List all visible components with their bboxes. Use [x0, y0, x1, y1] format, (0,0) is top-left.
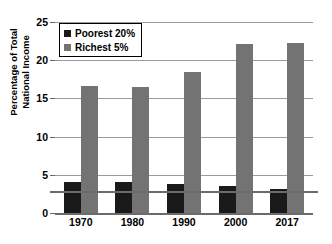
bar-chart: Percentage of Total National Income 0510…	[0, 0, 332, 244]
x-axis-tick-label: 2017	[261, 216, 313, 229]
y-axis-tick	[50, 175, 55, 176]
bar-poorest-1970[interactable]	[64, 182, 81, 213]
y-axis-tick-label: 25	[22, 17, 48, 27]
y-axis-tick-label: 5	[22, 170, 48, 180]
gridline	[55, 213, 313, 215]
bar-poorest-1990[interactable]	[167, 184, 184, 213]
bar-richest-2017[interactable]	[287, 43, 304, 213]
y-axis-tick	[50, 22, 55, 23]
y-axis-tick-label: 20	[22, 55, 48, 65]
x-axis-tick-label: 1980	[107, 216, 159, 229]
bar-group	[270, 22, 304, 213]
y-axis-tick	[50, 213, 55, 214]
y-axis-tick-label: 0	[22, 208, 48, 218]
y-axis-title-line1: Percentage of Total	[8, 28, 21, 115]
legend-swatch-icon	[64, 30, 71, 37]
y-axis-tick	[50, 98, 55, 99]
y-axis-tick-label: 15	[22, 93, 48, 103]
legend-swatch-icon	[64, 44, 71, 51]
x-axis-tick-label: 1990	[158, 216, 210, 229]
legend-item[interactable]: Richest 5%	[64, 41, 135, 53]
bar-poorest-2000[interactable]	[219, 186, 236, 214]
bar-poorest-1980[interactable]	[115, 182, 132, 213]
y-axis-tick-labels: 0510152025	[22, 0, 48, 244]
x-axis-tick-label: 2000	[210, 216, 262, 229]
y-axis-tick-label: 10	[22, 132, 48, 142]
bar-group	[167, 22, 201, 213]
chart-legend: Poorest 20%Richest 5%	[59, 23, 142, 57]
bar-richest-1970[interactable]	[81, 86, 98, 213]
bar-poorest-2017[interactable]	[270, 189, 287, 213]
legend-label: Poorest 20%	[75, 28, 135, 39]
legend-label: Richest 5%	[75, 42, 128, 53]
bar-group	[219, 22, 253, 213]
x-axis-tick-label: 1970	[55, 216, 107, 229]
y-axis-tick	[50, 60, 55, 61]
bar-richest-2000[interactable]	[236, 44, 253, 213]
y-axis-tick	[50, 137, 55, 138]
x-axis-line	[50, 191, 318, 193]
x-axis-tick-labels: 19701980199020002017	[55, 216, 313, 232]
bar-richest-1980[interactable]	[132, 87, 149, 213]
legend-item[interactable]: Poorest 20%	[64, 27, 135, 39]
